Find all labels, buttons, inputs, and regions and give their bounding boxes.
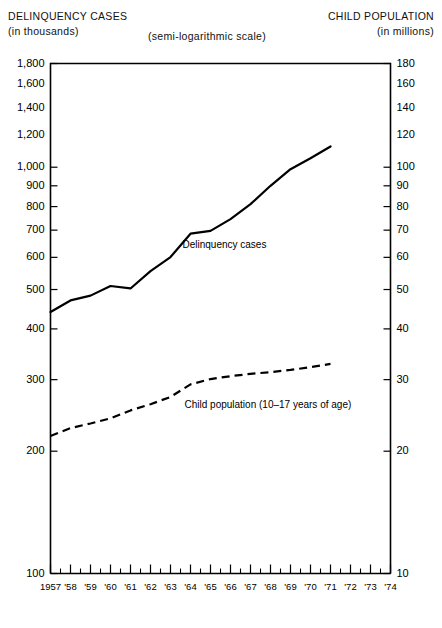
left-axis-tick-label: 1,000 (17, 160, 45, 172)
right-axis-ticks (384, 64, 391, 574)
axis-frame (51, 64, 391, 574)
right-axis-tick-label: 160 (397, 77, 415, 89)
right-axis-tick-label: 20 (397, 444, 409, 456)
bottom-axis-ticks (51, 565, 391, 574)
left-axis-tick-label: 700 (26, 223, 44, 235)
left-axis-tick-label: 400 (26, 322, 44, 334)
right-axis-tick-label: 40 (397, 322, 409, 334)
left-axis-tick-label: 300 (26, 373, 44, 385)
right-axis-tick-label: 60 (397, 250, 409, 262)
left-axis-tick-label: 1,400 (17, 101, 45, 113)
right-axis-tick-label: 180 (397, 57, 415, 69)
left-axis-tick-label: 200 (26, 444, 44, 456)
left-axis-tick-label: 100 (26, 567, 44, 579)
right-axis-tick-label: 120 (397, 128, 415, 140)
x-axis-tick-label: '74 (377, 581, 405, 592)
right-axis-tick-label: 50 (397, 283, 409, 295)
annotation-child-population: Child population (10–17 years of age) (185, 399, 352, 410)
left-axis-tick-label: 1,200 (17, 128, 45, 140)
left-axis-tick-label: 500 (26, 283, 44, 295)
left-axis-tick-label: 800 (26, 200, 44, 212)
annotation-delinquency-cases: Delinquency cases (183, 239, 267, 250)
plot-area (0, 0, 442, 628)
left-axis-tick-label: 600 (26, 250, 44, 262)
chart-container: DELINQUENCY CASES (in thousands) (semi-l… (0, 0, 442, 628)
right-axis-tick-label: 30 (397, 373, 409, 385)
right-axis-tick-label: 70 (397, 223, 409, 235)
right-axis-tick-label: 140 (397, 101, 415, 113)
right-axis-tick-label: 80 (397, 200, 409, 212)
left-axis-tick-label: 900 (26, 179, 44, 191)
left-axis-tick-label: 1,800 (17, 57, 45, 69)
series-line-delinquency-cases (51, 146, 331, 312)
right-axis-tick-label: 10 (397, 567, 409, 579)
right-axis-tick-label: 90 (397, 179, 409, 191)
left-axis-tick-label: 1,600 (17, 77, 45, 89)
left-axis-ticks (51, 64, 58, 574)
right-axis-tick-label: 100 (397, 160, 415, 172)
